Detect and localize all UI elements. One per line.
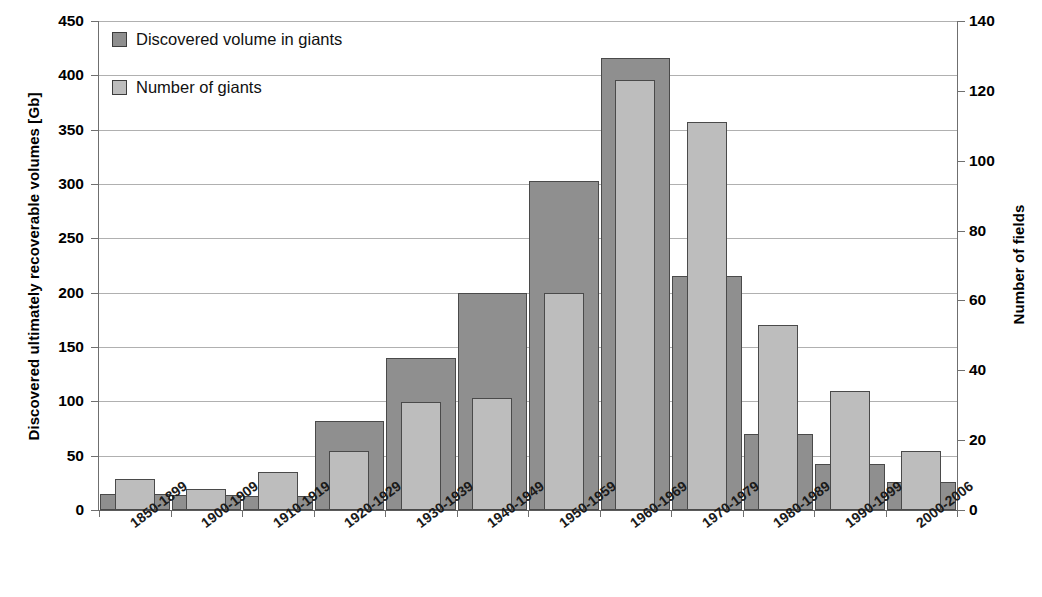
tick-mark-right (958, 370, 965, 371)
legend-item-volume: Discovered volume in giants (112, 25, 342, 54)
tick-mark-right (958, 231, 965, 232)
bar-number-of-giants (830, 391, 870, 510)
tick-mark-x (671, 510, 672, 517)
tick-mark-right (958, 161, 965, 162)
y-tick-label-right: 0 (969, 503, 1015, 517)
bar-group (814, 21, 886, 510)
tick-mark-x (957, 510, 958, 517)
y-tick-label-left: 50 (38, 449, 84, 463)
y-tick-label-right: 20 (969, 433, 1015, 447)
y-tick-label-left: 200 (38, 286, 84, 300)
tick-mark-left (91, 21, 98, 22)
tick-mark-x (814, 510, 815, 517)
tick-mark-left (91, 130, 98, 131)
tick-mark-x (242, 510, 243, 517)
bar-number-of-giants (758, 325, 798, 510)
legend-swatch-volume-icon (112, 32, 127, 47)
bar-number-of-giants (687, 122, 727, 510)
tick-mark-x (528, 510, 529, 517)
y-axis-right-ticks: 140120100806040200 (969, 0, 1015, 597)
tick-mark-right (958, 21, 965, 22)
tick-mark-left (91, 293, 98, 294)
tick-mark-x (99, 510, 100, 517)
tick-mark-x (886, 510, 887, 517)
tick-mark-x (600, 510, 601, 517)
tick-mark-x (743, 510, 744, 517)
y-tick-label-right: 140 (969, 14, 1015, 28)
y-tick-label-right: 60 (969, 293, 1015, 307)
bar-chart: Discovered ultimately recoverable volume… (0, 0, 1042, 597)
tick-mark-right (958, 440, 965, 441)
y-tick-label-right: 80 (969, 224, 1015, 238)
tick-mark-left (91, 456, 98, 457)
bar-group (528, 21, 600, 510)
bar-number-of-giants (472, 398, 512, 510)
tick-mark-right (958, 300, 965, 301)
y-tick-label-right: 100 (969, 154, 1015, 168)
bar-number-of-giants (401, 402, 441, 510)
tick-mark-left (91, 184, 98, 185)
y-tick-label-left: 100 (38, 394, 84, 408)
y-tick-label-left: 450 (38, 14, 84, 28)
tick-mark-x (314, 510, 315, 517)
bar-group (886, 21, 958, 510)
legend-label-volume: Discovered volume in giants (136, 30, 342, 49)
tick-mark-left (91, 238, 98, 239)
tick-mark-x (457, 510, 458, 517)
y-tick-label-left: 0 (38, 503, 84, 517)
tick-mark-right (958, 91, 965, 92)
bar-group (743, 21, 815, 510)
bar-group (671, 21, 743, 510)
tick-mark-left (91, 401, 98, 402)
bar-group (600, 21, 672, 510)
bar-group (457, 21, 529, 510)
y-tick-label-left: 400 (38, 68, 84, 82)
y-tick-label-left: 300 (38, 177, 84, 191)
chart-legend: Discovered volume in giants Number of gi… (112, 25, 342, 121)
tick-mark-left (91, 347, 98, 348)
y-tick-label-right: 40 (969, 363, 1015, 377)
y-tick-label-left: 350 (38, 123, 84, 137)
legend-swatch-count-icon (112, 80, 127, 95)
tick-mark-left (91, 75, 98, 76)
bar-group (385, 21, 457, 510)
bar-number-of-giants (544, 293, 584, 510)
y-tick-label-left: 150 (38, 340, 84, 354)
y-tick-label-left: 250 (38, 231, 84, 245)
tick-mark-x (385, 510, 386, 517)
bar-number-of-giants (615, 80, 655, 510)
legend-label-count: Number of giants (136, 78, 262, 97)
tick-mark-x (171, 510, 172, 517)
legend-item-count: Number of giants (112, 73, 342, 102)
y-tick-label-right: 120 (969, 84, 1015, 98)
tick-mark-left (91, 510, 98, 511)
y-axis-left-ticks: 450400350300250200150100500 (38, 0, 84, 597)
tick-mark-right (958, 510, 965, 511)
